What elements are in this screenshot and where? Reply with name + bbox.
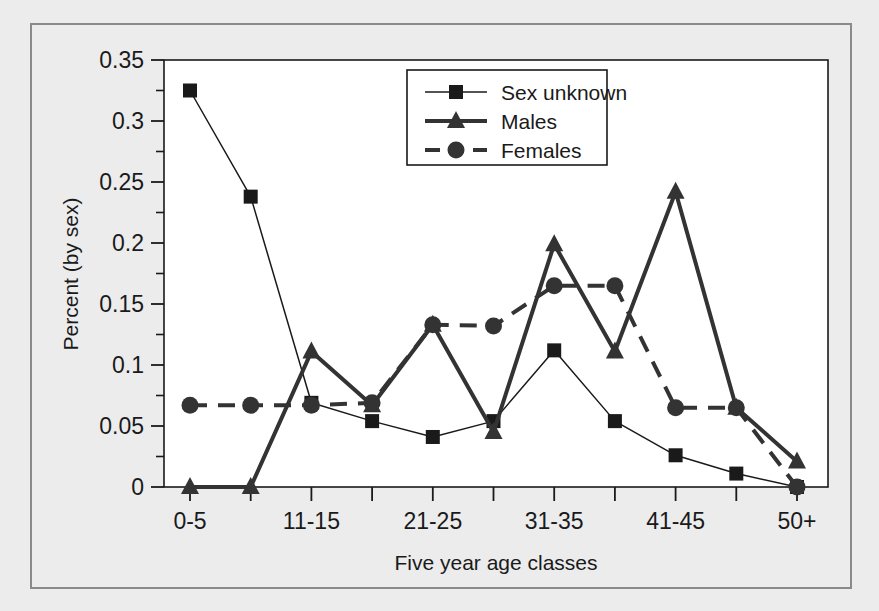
square-marker — [608, 414, 622, 428]
y-tick-label: 0.05 — [99, 413, 144, 439]
circle-marker — [364, 394, 381, 411]
circle-marker — [546, 277, 563, 294]
x-tick-label: 31-35 — [525, 508, 584, 534]
y-axis-tick-labels: 00.050.10.150.20.250.30.35 — [99, 47, 144, 500]
square-marker — [547, 343, 561, 357]
y-tick-label: 0 — [131, 474, 144, 500]
y-tick-label: 0.15 — [99, 291, 144, 317]
circle-marker — [606, 277, 623, 294]
circle-marker — [728, 399, 745, 416]
legend-label: Females — [501, 139, 582, 162]
y-tick-label: 0.25 — [99, 169, 144, 195]
square-marker — [449, 85, 463, 99]
y-tick-label: 0.2 — [112, 230, 144, 256]
circle-marker — [303, 397, 320, 414]
x-tick-label: 50+ — [777, 508, 816, 534]
y-tick-label: 0.35 — [99, 47, 144, 73]
x-axis-ticks — [190, 487, 797, 501]
circle-marker — [485, 317, 502, 334]
circle-marker — [242, 397, 259, 414]
x-tick-label: 0-5 — [173, 508, 206, 534]
square-marker — [244, 190, 258, 204]
square-marker — [365, 414, 379, 428]
square-marker — [669, 448, 683, 462]
y-tick-label: 0.1 — [112, 352, 144, 378]
circle-marker — [424, 316, 441, 333]
circle-marker — [667, 399, 684, 416]
circle-marker — [789, 479, 806, 496]
square-marker — [426, 430, 440, 444]
legend-label: Sex unknown — [501, 81, 627, 104]
x-tick-label: 41-45 — [646, 508, 705, 534]
y-axis-title: Percent (by sex) — [59, 198, 82, 351]
figure-root: 00.050.10.150.20.250.30.35 0-511-1521-25… — [0, 0, 879, 611]
y-axis-ticks — [151, 60, 164, 487]
y-tick-label: 0.3 — [112, 108, 144, 134]
circle-marker — [448, 142, 465, 159]
circle-marker — [182, 397, 199, 414]
square-marker — [183, 84, 197, 98]
line-chart: 00.050.10.150.20.250.30.35 0-511-1521-25… — [0, 0, 879, 611]
x-tick-label: 11-15 — [283, 508, 340, 534]
x-tick-label: 21-25 — [403, 508, 462, 534]
legend-label: Males — [501, 110, 557, 133]
x-axis-tick-labels: 0-511-1521-2531-3541-4550+ — [173, 508, 816, 534]
x-axis-title: Five year age classes — [394, 551, 597, 574]
chart-legend: Sex unknownMalesFemales — [407, 70, 627, 165]
square-marker — [729, 467, 743, 481]
